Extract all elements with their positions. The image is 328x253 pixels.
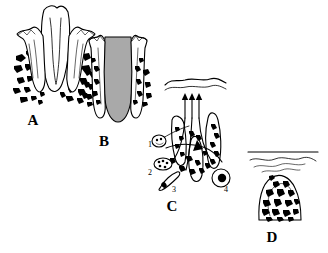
panel-b-letter: B <box>99 133 109 149</box>
panel-c-callout-3: 3 <box>172 185 176 194</box>
panel-a-letter: A <box>28 112 39 128</box>
panel-c-cell-1 <box>152 135 166 147</box>
panel-c-cell-2 <box>154 158 172 170</box>
figure-root: A <box>0 0 328 253</box>
panel-c-callout-1: 1 <box>148 140 152 149</box>
figure-canvas: A <box>0 0 328 253</box>
panel-d-letter: D <box>267 229 278 245</box>
panel-c-callout-2: 2 <box>148 168 152 177</box>
panel-c-arrow-group <box>182 93 202 118</box>
panel-b-gray-body <box>104 37 133 122</box>
panel-c-letter: C <box>167 198 178 214</box>
panel-c-callout-4: 4 <box>224 185 228 194</box>
